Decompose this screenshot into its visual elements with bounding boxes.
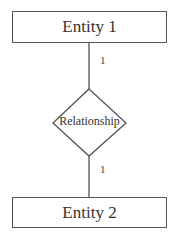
relationship-label: Relationship: [53, 114, 126, 129]
entity-2-label: Entity 2: [62, 203, 116, 223]
cardinality-entity-1: 1: [100, 54, 106, 66]
cardinality-entity-2: 1: [100, 163, 106, 175]
entity-2-box[interactable]: Entity 2: [12, 197, 167, 228]
entity-1-label: Entity 1: [62, 17, 116, 37]
entity-1-box[interactable]: Entity 1: [12, 11, 167, 43]
